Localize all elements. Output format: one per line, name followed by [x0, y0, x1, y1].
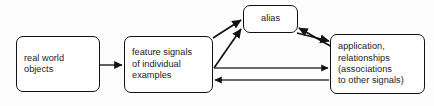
node-real-world-objects[interactable]: real world objects — [16, 36, 100, 92]
node-label-line: application, — [338, 41, 424, 52]
node-label-line: feature signals — [132, 47, 212, 58]
node-application[interactable]: application, relationships (associations… — [330, 34, 425, 94]
node-label-line: examples — [132, 70, 212, 81]
node-feature-signals[interactable]: feature signals of individual examples — [124, 36, 213, 93]
node-label-line: alias — [261, 13, 280, 24]
node-label-line: relationships — [338, 53, 424, 64]
diagram-canvas: real world objects feature signals of in… — [0, 0, 434, 106]
node-alias[interactable]: alias — [243, 5, 298, 33]
node-label-line: real world — [24, 53, 99, 64]
node-label-line: objects — [24, 64, 99, 75]
node-label-line: to other signals) — [338, 75, 424, 86]
node-label-line: (associations — [338, 64, 424, 75]
node-label-line: of individual — [132, 59, 212, 70]
edge-alias-to-application — [297, 33, 329, 41]
